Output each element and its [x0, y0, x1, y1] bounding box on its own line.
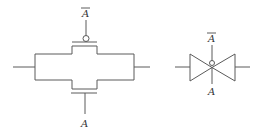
- symbol-bottom-label: A: [207, 86, 215, 97]
- nmos-channel: [35, 67, 134, 89]
- symbol-inversion-bubble: [210, 61, 215, 66]
- symbol-top-label: A: [207, 33, 215, 44]
- right-triangle: [212, 54, 235, 81]
- transmission-gate-diagram: A A A A: [0, 0, 263, 132]
- nmos-gate-label: A: [80, 118, 88, 129]
- left-triangle: [190, 54, 212, 81]
- transmission-gate-symbol: A A: [175, 33, 250, 97]
- transistor-circuit: A A: [13, 8, 150, 129]
- pmos-inversion-bubble: [83, 36, 89, 42]
- pmos-gate-label: A: [81, 8, 89, 19]
- pmos-channel: [35, 46, 134, 67]
